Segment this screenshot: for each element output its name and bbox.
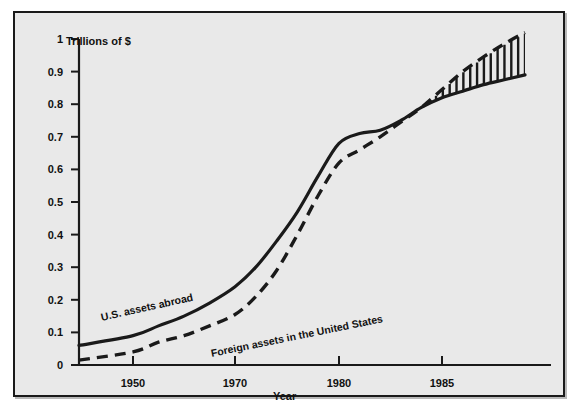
y-axis-tick-label: 0.1	[29, 326, 63, 338]
x-axis-tick-label: 1985	[417, 377, 467, 389]
x-axis-tick-label: 1980	[314, 377, 364, 389]
y-axis-tick-label: 0.9	[29, 66, 63, 78]
y-axis-title: Trillions of $	[66, 35, 131, 47]
x-axis-ticks	[133, 356, 442, 365]
y-axis-ticks	[71, 39, 79, 365]
y-axis-tick-label: 0.8	[29, 98, 63, 110]
chart-panel: Trillions of $ Year 00.10.20.30.40.50.60…	[13, 11, 565, 397]
y-axis-tick-label: 1	[29, 33, 63, 45]
scan-artifact	[276, 0, 286, 6]
x-axis-title: Year	[273, 390, 296, 402]
x-axis-tick-label: 1970	[210, 377, 260, 389]
y-axis-tick-label: 0	[29, 359, 63, 371]
y-axis-tick-label: 0.3	[29, 261, 63, 273]
y-axis-tick-label: 0.7	[29, 131, 63, 143]
x-axis-tick-label: 1950	[108, 377, 158, 389]
y-axis-tick-label: 0.5	[29, 196, 63, 208]
y-axis-tick-label: 0.2	[29, 294, 63, 306]
y-axis-tick-label: 0.4	[29, 229, 63, 241]
y-axis-tick-label: 0.6	[29, 163, 63, 175]
net-debtor-gap-hatching	[429, 33, 525, 103]
figure-container: Trillions of $ Year 00.10.20.30.40.50.60…	[0, 0, 581, 420]
